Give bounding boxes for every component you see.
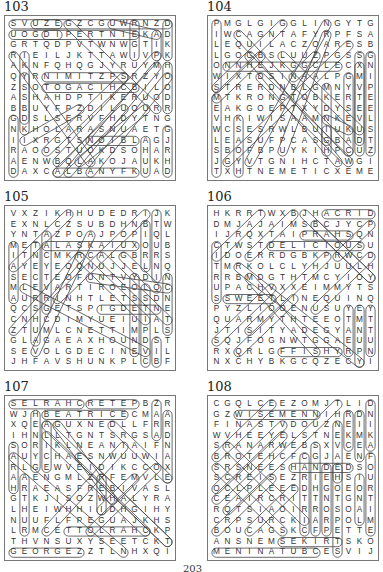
grid-letter: K <box>74 51 85 62</box>
grid-letter: L <box>244 19 255 30</box>
grid-letter: Q <box>74 61 85 72</box>
grid-letter: P <box>211 19 222 30</box>
grid-letter: Z <box>233 304 244 315</box>
grid-letter: E <box>222 494 233 505</box>
grid-letter: K <box>118 463 129 474</box>
grid-letter: I <box>310 146 321 157</box>
grid-letter: S <box>233 125 244 136</box>
grid-letter: T <box>85 93 96 104</box>
grid-letter: N <box>244 537 255 548</box>
grid-letter: H <box>244 357 255 368</box>
grid-letter: E <box>321 315 332 326</box>
grid-letter: A <box>211 537 222 548</box>
grid-cells: PMGLGIGGLINGYTGIWCAGNTAFYRPFSALEQUILACZO… <box>211 19 376 178</box>
grid-letter: M <box>151 61 162 72</box>
grid-letter: E <box>255 294 266 305</box>
grid-letter: D <box>107 146 118 157</box>
grid-letter: G <box>222 51 233 62</box>
grid-letter: Z <box>140 72 151 83</box>
grid-letter: N <box>118 547 129 558</box>
grid-letter: E <box>96 420 107 431</box>
grid-letter: G <box>151 136 162 147</box>
grid-letter: A <box>118 494 129 505</box>
grid-letter: G <box>129 431 140 442</box>
letter-grid: SELRAHCRETEPBZRWJHBEATRICECMAAXQEAGUXNED… <box>4 395 176 561</box>
grid-letter: I <box>365 505 376 516</box>
grid-letter: T <box>244 72 255 83</box>
grid-letter: E <box>85 516 96 527</box>
grid-letter: T <box>299 167 310 178</box>
grid-letter: U <box>310 420 321 431</box>
grid-letter: P <box>222 283 233 294</box>
grid-letter: Y <box>332 347 343 358</box>
grid-letter: K <box>140 30 151 41</box>
grid-letter: K <box>310 251 321 262</box>
grid-letter: Y <box>332 326 343 337</box>
grid-letter: E <box>244 431 255 442</box>
grid-letter: A <box>41 357 52 368</box>
grid-letter: S <box>211 473 222 484</box>
grid-letter: B <box>107 484 118 495</box>
grid-letter: R <box>310 505 321 516</box>
grid-letter: D <box>162 19 173 30</box>
grid-letter: D <box>19 114 30 125</box>
grid-letter: D <box>63 93 74 104</box>
grid-letter: N <box>30 431 41 442</box>
grid-letter: L <box>52 125 63 136</box>
grid-letter: P <box>118 357 129 368</box>
grid-letter: C <box>255 399 266 410</box>
grid-letter: K <box>30 494 41 505</box>
grid-letter: Y <box>140 494 151 505</box>
grid-letter: Y <box>365 273 376 284</box>
grid-letter: T <box>365 315 376 326</box>
grid-letter: C <box>41 452 52 463</box>
grid-letter: S <box>354 40 365 51</box>
grid-letter: X <box>233 72 244 83</box>
grid-letter: L <box>19 336 30 347</box>
grid-letter: C <box>118 83 129 94</box>
grid-letter: I <box>266 114 277 125</box>
grid-letter: I <box>211 251 222 262</box>
grid-letter: S <box>8 273 19 284</box>
grid-letter: R <box>277 494 288 505</box>
grid-letter: B <box>299 251 310 262</box>
grid-letter: N <box>107 125 118 136</box>
grid-letter: L <box>321 61 332 72</box>
grid-letter: T <box>233 505 244 516</box>
grid-letter: I <box>354 473 365 484</box>
grid-letter: T <box>277 30 288 41</box>
grid-letter: N <box>321 19 332 30</box>
grid-letter: D <box>118 114 129 125</box>
grid-letter: N <box>277 83 288 94</box>
grid-letter: O <box>74 494 85 505</box>
grid-letter: H <box>74 294 85 305</box>
grid-letter: E <box>129 30 140 41</box>
grid-letter: T <box>162 336 173 347</box>
grid-letter: Y <box>288 146 299 157</box>
grid-letter: L <box>288 125 299 136</box>
grid-letter: J <box>129 516 140 527</box>
grid-letter: L <box>162 347 173 358</box>
grid-letter: K <box>52 441 63 452</box>
grid-letter: A <box>19 146 30 157</box>
grid-letter: L <box>354 262 365 273</box>
grid-letter: G <box>129 40 140 51</box>
grid-letter: I <box>354 547 365 558</box>
grid-letter: I <box>321 125 332 136</box>
grid-letter: O <box>354 484 365 495</box>
grid-letter: N <box>365 410 376 421</box>
grid-letter: H <box>19 505 30 516</box>
grid-letter: C <box>277 516 288 527</box>
grid-letter: E <box>222 40 233 51</box>
grid-letter: E <box>30 283 41 294</box>
grid-letter: D <box>266 241 277 252</box>
grid-letter: U <box>118 241 129 252</box>
grid-letter: K <box>85 241 96 252</box>
grid-letter: O <box>63 273 74 284</box>
grid-letter: E <box>244 473 255 484</box>
grid-letter: C <box>321 167 332 178</box>
grid-letter: A <box>151 431 162 442</box>
grid-letter: A <box>162 494 173 505</box>
grid-letter: B <box>41 410 52 421</box>
grid-letter: T <box>299 494 310 505</box>
